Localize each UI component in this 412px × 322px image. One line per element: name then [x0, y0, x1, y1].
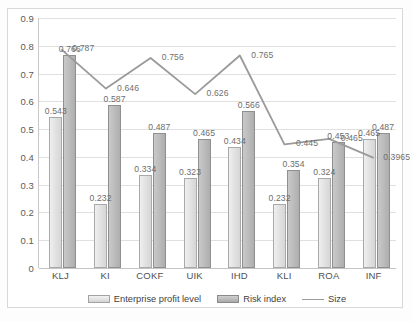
- data-label-enterprise-profit-level: 0.232: [90, 193, 112, 203]
- bar-enterprise-profit-level[interactable]: [94, 204, 107, 268]
- data-label-risk-index: 0.487: [372, 122, 394, 132]
- bar-risk-index[interactable]: [332, 142, 345, 268]
- data-label-enterprise-profit-level: 0.543: [45, 106, 67, 116]
- bar-group: [45, 18, 77, 268]
- bar-risk-index[interactable]: [153, 133, 166, 268]
- legend-item-enterprise-profit-level[interactable]: Enterprise profit level: [88, 294, 201, 304]
- y-axis-tick-label: 0.3: [4, 179, 34, 190]
- legend-swatch-enterprise-profit-level: [88, 295, 110, 303]
- bar-enterprise-profit-level[interactable]: [49, 117, 62, 268]
- bars-layer: [39, 18, 396, 268]
- data-label-size: 0.765: [251, 50, 273, 60]
- data-label-risk-index: 0.566: [238, 100, 260, 110]
- y-axis-tick-label: 0.4: [4, 151, 34, 162]
- chart-container: 0.90.80.70.60.50.40.30.20.10 0.5430.7660…: [0, 0, 412, 322]
- bar-risk-index[interactable]: [63, 55, 76, 268]
- bar-group: [314, 18, 346, 268]
- corner-mark: ·: [401, 305, 403, 311]
- data-label-enterprise-profit-level: 0.324: [313, 167, 335, 177]
- bar-enterprise-profit-level[interactable]: [273, 204, 286, 268]
- legend-label-enterprise-profit-level: Enterprise profit level: [114, 294, 201, 304]
- y-axis-tick-label: 0.8: [4, 40, 34, 51]
- data-label-enterprise-profit-level: 0.434: [224, 136, 246, 146]
- x-axis-tick-label: KLI: [277, 270, 292, 281]
- x-axis-tick-label: COKF: [136, 270, 163, 281]
- data-label-enterprise-profit-level: 0.334: [134, 164, 156, 174]
- data-label-size: 0.626: [207, 88, 229, 98]
- bar-risk-index[interactable]: [108, 105, 121, 268]
- data-label-size: 0.465: [341, 133, 363, 143]
- y-axis-tick-label: 0.7: [4, 68, 34, 79]
- legend-swatch-risk-index: [217, 295, 239, 303]
- x-axis-tick-label: IHD: [231, 270, 248, 281]
- gridline: [39, 268, 396, 269]
- data-label-risk-index: 0.587: [104, 94, 126, 104]
- data-label-enterprise-profit-level: 0.323: [179, 167, 201, 177]
- x-axis-tick-label: ROA: [318, 270, 339, 281]
- bar-enterprise-profit-level[interactable]: [184, 178, 197, 268]
- bar-enterprise-profit-level[interactable]: [228, 147, 241, 268]
- y-axis-tick-label: 0.1: [4, 235, 34, 246]
- data-label-enterprise-profit-level: 0.232: [269, 193, 291, 203]
- data-label-risk-index: 0.354: [283, 159, 305, 169]
- x-axis-tick-label: UIK: [186, 270, 202, 281]
- bar-enterprise-profit-level[interactable]: [318, 178, 331, 268]
- bar-risk-index[interactable]: [198, 139, 211, 268]
- x-axis-tick-label: KLJ: [52, 270, 69, 281]
- data-label-risk-index: 0.487: [148, 122, 170, 132]
- legend-item-risk-index[interactable]: Risk index: [217, 294, 286, 304]
- data-label-size: 0.3965: [383, 152, 410, 162]
- data-label-size: 0.787: [72, 43, 94, 53]
- y-axis-tick-label: 0.2: [4, 207, 34, 218]
- bar-risk-index[interactable]: [287, 170, 300, 268]
- x-axis-tick-label: KI: [100, 270, 109, 281]
- data-label-size: 0.646: [117, 83, 139, 93]
- legend-label-size: Size: [328, 294, 346, 304]
- bar-enterprise-profit-level[interactable]: [139, 175, 152, 268]
- legend-swatch-size: [302, 299, 324, 300]
- bar-group: [359, 18, 391, 268]
- y-axis-tick-label: 0: [4, 263, 34, 274]
- y-axis: 0.90.80.70.60.50.40.30.20.10: [0, 18, 34, 268]
- x-axis-tick-label: INF: [366, 270, 382, 281]
- data-label-size: 0.756: [162, 52, 184, 62]
- chart-legend: Enterprise profit level Risk index Size: [38, 291, 396, 307]
- legend-item-size[interactable]: Size: [302, 294, 346, 304]
- x-axis: KLJKICOKFUIKIHDKLIROAINF: [38, 270, 396, 286]
- bar-risk-index[interactable]: [242, 111, 255, 268]
- plot-area: 0.5430.7660.2320.5870.3340.4870.3230.465…: [38, 18, 396, 268]
- bar-group: [90, 18, 122, 268]
- y-axis-tick-label: 0.6: [4, 96, 34, 107]
- y-axis-tick-label: 0.9: [4, 13, 34, 24]
- bar-enterprise-profit-level[interactable]: [363, 139, 376, 268]
- data-label-size: 0.445: [296, 138, 318, 148]
- y-axis-tick-label: 0.5: [4, 124, 34, 135]
- data-label-risk-index: 0.465: [193, 128, 215, 138]
- legend-label-risk-index: Risk index: [243, 294, 286, 304]
- bar-group: [180, 18, 212, 268]
